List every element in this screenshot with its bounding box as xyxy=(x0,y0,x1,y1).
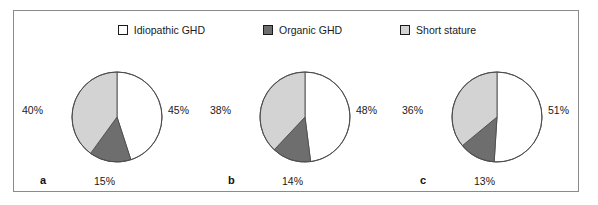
legend-item-organic-ghd: Organic GHD xyxy=(263,24,342,36)
pie-slice-idiopathic-ghd xyxy=(305,72,350,162)
legend-label-organic-ghd: Organic GHD xyxy=(279,24,342,36)
figure-container: Idiopathic GHD Organic GHD Short stature… xyxy=(0,0,598,205)
pie-panel-b: 48% 14% 38% b xyxy=(206,59,392,199)
legend-item-idiopathic-ghd: Idiopathic GHD xyxy=(118,24,205,36)
pie-c-label-organic: 13% xyxy=(474,175,495,187)
legend-swatch-icon-organic-ghd xyxy=(263,25,273,35)
pie-panel-a: 45% 15% 40% a xyxy=(18,59,204,199)
pie-slice-idiopathic-ghd xyxy=(494,72,542,162)
pie-svg-a xyxy=(71,71,163,163)
figure-frame: Idiopathic GHD Organic GHD Short stature… xyxy=(13,10,579,192)
legend-swatch-icon-short-stature xyxy=(400,25,410,35)
pie-b-label-organic: 14% xyxy=(282,175,303,187)
pie-c-label-short: 36% xyxy=(402,104,423,116)
pie-c-label-idiopathic: 51% xyxy=(548,104,569,116)
panel-letter-b: b xyxy=(228,174,235,186)
panel-letter-c: c xyxy=(420,174,426,186)
pie-chart-b xyxy=(259,71,351,163)
legend: Idiopathic GHD Organic GHD Short stature xyxy=(14,21,580,39)
pie-panel-c: 51% 13% 36% c xyxy=(398,59,584,199)
pie-svg-b xyxy=(259,71,351,163)
legend-label-short-stature: Short stature xyxy=(416,24,476,36)
pie-a-label-organic: 15% xyxy=(94,175,115,187)
pie-a-label-short: 40% xyxy=(22,104,43,116)
panel-letter-a: a xyxy=(40,174,46,186)
pie-svg-c xyxy=(451,71,543,163)
pie-chart-a xyxy=(71,71,163,163)
legend-label-idiopathic-ghd: Idiopathic GHD xyxy=(134,24,205,36)
legend-swatch-icon-idiopathic-ghd xyxy=(118,25,128,35)
pie-b-label-short: 38% xyxy=(210,104,231,116)
pie-b-label-idiopathic: 48% xyxy=(356,104,377,116)
pie-a-label-idiopathic: 45% xyxy=(168,104,189,116)
legend-item-short-stature: Short stature xyxy=(400,24,476,36)
pie-chart-c xyxy=(451,71,543,163)
